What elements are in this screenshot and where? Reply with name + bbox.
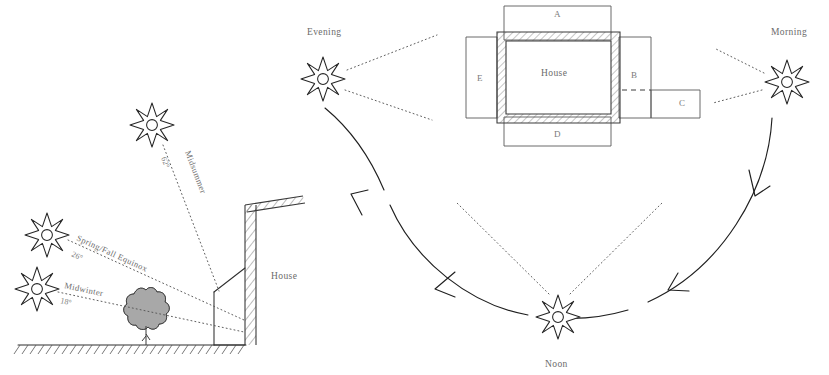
- label-midwinter: Midwinter: [64, 280, 105, 298]
- label-noon: Noon: [545, 359, 568, 369]
- zone-B: B: [619, 37, 651, 118]
- ray-noon-2: [570, 203, 662, 294]
- zone-E: E: [466, 37, 497, 118]
- label-equinox: Spring/Fall Equinox: [75, 233, 149, 274]
- arrow-noon-to-evening-2: [351, 190, 368, 215]
- ground: [14, 345, 246, 354]
- sun-noon: Noon: [457, 203, 662, 369]
- sun-icon-evening: [301, 57, 345, 101]
- plan-diagram: A E B C D House: [301, 6, 809, 369]
- sun-morning: Morning: [713, 27, 809, 104]
- section-diagram: House Midsummer 62° Spring/Fall Equinox …: [14, 103, 305, 354]
- sun-evening: Evening: [301, 27, 437, 120]
- zone-C-label: C: [679, 98, 685, 108]
- sun-icon-morning: [765, 60, 809, 104]
- ray-noon-1: [457, 203, 549, 294]
- label-evening: Evening: [307, 27, 341, 37]
- label-midsummer: Midsummer: [183, 149, 209, 195]
- zone-E-label: E: [477, 73, 483, 83]
- sun-icon-midwinter: [15, 267, 59, 311]
- sun-icon-midsummer: [130, 103, 174, 147]
- plan-house-label: House: [541, 68, 567, 78]
- ray-morning-2: [713, 90, 762, 103]
- label-morning: Morning: [771, 27, 807, 37]
- zone-A-label: A: [554, 9, 561, 19]
- tree: [124, 288, 170, 345]
- ray-evening-1: [347, 35, 437, 70]
- angle-equinox: 26°: [70, 250, 84, 263]
- ray-evening-2: [345, 90, 432, 120]
- zone-D-label: D: [554, 129, 561, 139]
- angle-midwinter: 18°: [60, 296, 73, 307]
- zone-B-label: B: [631, 70, 637, 80]
- ray-morning-1: [714, 48, 764, 73]
- sun-icon-noon: [536, 295, 580, 339]
- figure-canvas: House Midsummer 62° Spring/Fall Equinox …: [0, 0, 829, 375]
- arrow-morning-to-noon-1: [749, 170, 770, 196]
- sun-path-arc: [325, 108, 772, 318]
- arrow-morning-to-noon-2: [668, 273, 689, 291]
- sun-icon-equinox: [25, 213, 69, 257]
- section-house-label: House: [271, 271, 297, 281]
- zone-C: C: [651, 90, 700, 118]
- angle-midsummer: 62°: [159, 155, 171, 169]
